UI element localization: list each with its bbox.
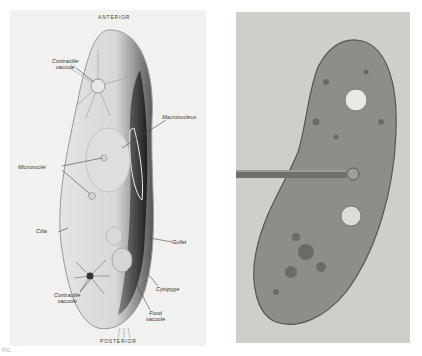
cytopyge-label: Cytopyge — [156, 286, 179, 292]
micrograph-image — [236, 12, 410, 343]
contractile-vacuole-label-top: Contractile vacuole — [52, 58, 78, 70]
contractile-vacuole-label-bottom: Contractile vacuole — [54, 292, 80, 304]
micronuclei-label: Micronuclei — [18, 164, 46, 170]
anterior-label: ANTERIOR — [98, 14, 130, 20]
paramecium-diagram: ANTERIOR Contractile vacuole Macronucleu… — [10, 10, 206, 346]
macronucleus-label: Macronucleus — [162, 114, 196, 120]
paramecium-drawing — [10, 10, 206, 346]
figure-caption: FIG. ... — [2, 347, 17, 353]
posterior-label: POSTERIOR — [100, 338, 137, 344]
cilia-label: Cilia — [36, 228, 47, 234]
gullet-label: Gullet — [172, 239, 186, 245]
food-vacuole-label: Food vacuole — [146, 310, 165, 322]
paramecium-micrograph — [236, 12, 410, 343]
